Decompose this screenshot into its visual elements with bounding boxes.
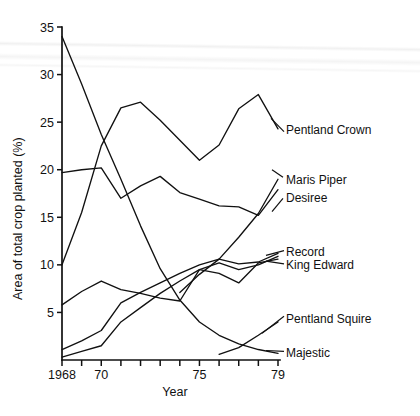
- series-leader-lines: [262, 118, 284, 351]
- chart-axes: [57, 27, 280, 366]
- label-leader-line: [272, 198, 283, 211]
- y-tick-label: 25: [40, 116, 54, 130]
- y-axis-tick-labels: 5101520253035: [40, 21, 54, 320]
- y-axis-title: Area of total crop planted (%): [11, 137, 25, 300]
- series-label: Majestic: [286, 346, 330, 360]
- series-labels-group: Pentland CrownMaris PiperDesireeRecordKi…: [286, 123, 372, 360]
- x-tick-label: 70: [94, 368, 108, 382]
- y-tick-label: 5: [47, 306, 54, 320]
- label-leader-line: [266, 261, 284, 264]
- label-leader-line: [262, 316, 284, 333]
- y-tick-label: 35: [40, 21, 54, 35]
- data-series-group: [62, 37, 278, 358]
- series-line: [219, 322, 278, 354]
- series-line: [62, 168, 278, 216]
- series-label: Pentland Squire: [286, 312, 372, 326]
- y-tick-label: 30: [40, 68, 54, 82]
- x-tick-label: 1968: [48, 368, 76, 382]
- x-tick-label: 79: [271, 368, 285, 382]
- series-label: Maris Piper: [286, 173, 347, 187]
- x-axis-title: Year: [162, 385, 187, 399]
- series-label: Record: [286, 245, 325, 259]
- x-axis-tick-labels: 1968707579: [48, 368, 285, 382]
- series-line: [62, 256, 278, 357]
- series-line: [62, 95, 278, 265]
- series-line: [180, 179, 278, 292]
- label-leader-line: [271, 118, 284, 131]
- series-label: King Edward: [286, 258, 354, 272]
- series-line: [62, 37, 278, 354]
- x-tick-label: 75: [193, 368, 207, 382]
- y-tick-label: 15: [40, 211, 54, 225]
- series-label: Desiree: [286, 191, 328, 205]
- x-axis-ticks: [62, 360, 278, 366]
- y-tick-label: 20: [40, 163, 54, 177]
- series-line: [62, 259, 278, 305]
- label-leader-line: [272, 170, 283, 178]
- y-tick-label: 10: [40, 258, 54, 272]
- series-label: Pentland Crown: [286, 123, 371, 137]
